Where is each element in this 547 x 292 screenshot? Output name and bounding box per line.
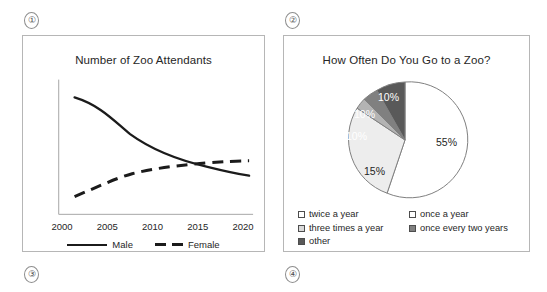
legend-label-other: other	[309, 235, 330, 249]
legend-item-female: Female	[155, 239, 220, 250]
pie-label-10-c: 10%	[378, 91, 399, 103]
legend-label-once-a-year: once a year	[420, 208, 469, 222]
swatch-icon-other	[298, 238, 305, 245]
legend-item-three-times-a-year: three times a year	[298, 222, 409, 236]
line-chart-panel: Number of Zoo Attendants 2000 2005 2010 …	[22, 35, 265, 252]
pie-label-10-a: 10%	[346, 130, 367, 142]
line-chart-legend: Male Female	[23, 239, 264, 250]
legend-item-male: Male	[67, 239, 133, 250]
x-tick-2015: 2015	[183, 221, 213, 232]
pie-chart-legend: twice a year once a year three times a y…	[298, 208, 520, 249]
quadrant-marker-2: ②	[285, 12, 300, 29]
legend-label-female: Female	[188, 239, 220, 250]
pie-label-10-b: 10%	[354, 108, 375, 120]
x-tick-2010: 2010	[138, 221, 168, 232]
series-line-male	[75, 97, 250, 175]
legend-label-male: Male	[112, 239, 133, 250]
swatch-icon-once-every-two-years	[409, 225, 416, 232]
legend-label-once-every-two-years: once every two years	[420, 222, 508, 236]
pie-chart-plot: 55% 15% 10% 10% 10%	[284, 74, 529, 206]
legend-label-three-times-a-year: three times a year	[309, 222, 383, 236]
solid-line-swatch-icon	[67, 244, 107, 246]
legend-item-twice-a-year: twice a year	[298, 208, 409, 222]
x-axis-tick-labels: 2000 2005 2010 2015 2020	[47, 221, 258, 232]
legend-item-other: other	[298, 235, 520, 249]
x-tick-2020: 2020	[228, 221, 258, 232]
legend-label-twice-a-year: twice a year	[309, 208, 359, 222]
swatch-icon-three-times-a-year	[298, 225, 305, 232]
line-chart-plot	[23, 36, 264, 251]
pie-svg: 55% 15% 10% 10% 10%	[284, 74, 531, 206]
series-line-female	[75, 161, 250, 197]
legend-item-once-a-year: once a year	[409, 208, 520, 222]
x-tick-2000: 2000	[47, 221, 77, 232]
swatch-icon-once-a-year	[409, 211, 416, 218]
pie-chart-title: How Often Do You Go to a Zoo?	[284, 54, 529, 66]
pie-chart-panel: How Often Do You Go to a Zoo? 55% 15% 10…	[283, 35, 530, 252]
pie-label-55: 55%	[436, 136, 457, 148]
quadrant-marker-1: ①	[24, 12, 39, 29]
worksheet-page: ① ② ③ ④ Number of Zoo Attendants 2000 20…	[0, 0, 547, 292]
legend-item-once-every-two-years: once every two years	[409, 222, 520, 236]
x-tick-2005: 2005	[92, 221, 122, 232]
swatch-icon-twice-a-year	[298, 211, 305, 218]
dashed-line-swatch-icon	[155, 243, 183, 246]
quadrant-marker-3: ③	[24, 266, 39, 283]
quadrant-marker-4: ④	[285, 266, 300, 283]
pie-label-15: 15%	[364, 165, 385, 177]
